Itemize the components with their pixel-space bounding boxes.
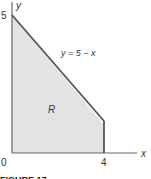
region-diagram: y 5 y = 5 − x R 0 4 x FIGURE 17 [0, 0, 151, 179]
x-axis-label: x [140, 148, 147, 159]
region-label: R [48, 104, 55, 115]
x-tick-4: 4 [101, 157, 107, 168]
y-tick-5: 5 [1, 10, 7, 21]
curve-label: y = 5 − x [60, 48, 96, 58]
origin-label: 0 [1, 157, 7, 168]
figure-caption: FIGURE 17 [0, 175, 47, 179]
y-axis-label: y [15, 0, 22, 11]
region-r-fill [12, 15, 104, 153]
